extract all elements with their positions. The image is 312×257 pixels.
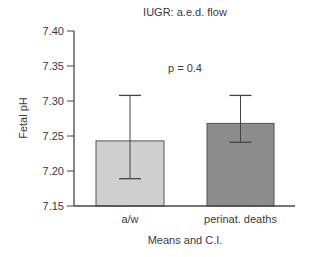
y-tick-label: 7.20 (43, 165, 64, 177)
bars (96, 95, 274, 206)
x-axis-label: Means and C.I. (148, 234, 223, 246)
x-category-label: perinat. deaths (204, 213, 277, 225)
chart-title: IUGR: a.e.d. flow (143, 6, 227, 18)
y-axis: 7.407.357.307.257.207.15 (43, 25, 74, 212)
y-tick-label: 7.15 (43, 200, 64, 212)
p-value-annotation: p = 0.4 (168, 62, 202, 74)
x-category-label: a/w (121, 213, 138, 225)
y-tick-label: 7.30 (43, 95, 64, 107)
bar-chart: IUGR: a.e.d. flow 7.407.357.307.257.207.… (0, 0, 312, 257)
y-tick-label: 7.40 (43, 25, 64, 37)
y-axis-label: Fetal pH (17, 97, 29, 139)
y-tick-label: 7.25 (43, 130, 64, 142)
y-tick-label: 7.35 (43, 60, 64, 72)
